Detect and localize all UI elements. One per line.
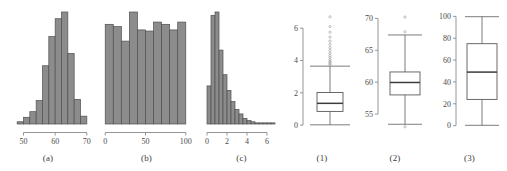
x-axis-tick-label: 4 [245, 137, 249, 146]
histogram-bar [105, 24, 113, 124]
histogram-bar [215, 12, 219, 124]
outlier-point [329, 46, 331, 48]
histogram-bar [137, 30, 145, 124]
boxplot-1-plot: 0246 [286, 0, 358, 150]
x-axis-tick-label: 6 [265, 137, 269, 146]
x-axis-tick-label: 2 [225, 137, 229, 146]
y-axis-tick-label: 60 [365, 78, 373, 87]
panel-label-a: (a) [0, 153, 96, 163]
histogram-bar [113, 27, 121, 124]
outlier-point [329, 31, 331, 33]
histogram-bar [243, 118, 247, 124]
histogram-bar [146, 31, 154, 124]
outlier-point [329, 36, 331, 38]
histogram-bar [62, 12, 68, 124]
outlier-point [404, 126, 406, 128]
histogram-bar [271, 123, 275, 124]
histogram-bar [223, 75, 227, 124]
histogram-bar [170, 30, 178, 124]
y-axis-tick-label: 4 [294, 56, 298, 65]
outlier-point [329, 16, 331, 18]
y-axis-tick-label: 6 [294, 24, 298, 33]
x-axis-tick-label: 70 [83, 137, 91, 146]
boxplot-panel-3: 020406080100 (3) [432, 0, 507, 171]
y-axis-tick-label: 60 [443, 56, 451, 65]
histogram-bar [227, 90, 231, 124]
outlier-point [329, 49, 331, 51]
histogram-bar [211, 15, 215, 124]
y-axis-tick-label: 0 [447, 121, 451, 130]
boxplot-panel-2: 55606570 (2) [358, 0, 432, 171]
histogram-c-plot: 0246 [197, 0, 286, 150]
outlier-point [404, 31, 406, 33]
y-axis-tick-label: 55 [365, 110, 373, 119]
histogram-bar [235, 109, 239, 124]
histogram-bar [255, 123, 259, 124]
histogram-bar [17, 122, 23, 124]
histogram-bar [121, 41, 129, 124]
y-axis-tick-label: 80 [443, 34, 451, 43]
histogram-bar [251, 122, 255, 124]
y-axis-tick-label: 40 [443, 78, 451, 87]
statistics-figure: 506070 (a) 050100 (b) 0246 (c) 0246 (1) … [0, 0, 507, 171]
histogram-panel-b: 050100 (b) [96, 0, 197, 171]
outlier-point [329, 40, 331, 42]
boxplot-3-plot: 020406080100 [432, 0, 507, 150]
outlier-point [404, 16, 406, 18]
y-axis-tick-label: 2 [294, 89, 298, 98]
boxplot-2-plot: 55606570 [358, 0, 432, 150]
histogram-bar [24, 117, 30, 124]
histogram-bar [43, 66, 49, 124]
histogram-panel-a: 506070 (a) [0, 0, 96, 171]
x-axis-tick-label: 50 [20, 137, 28, 146]
outlier-point [329, 25, 331, 27]
x-axis-tick-label: 100 [180, 137, 192, 146]
panel-label-2: (2) [358, 153, 432, 163]
histogram-bar [267, 123, 271, 124]
histogram-bar [178, 22, 186, 124]
histogram-bar [74, 99, 80, 124]
histogram-bar [30, 112, 36, 124]
histogram-bar [247, 121, 251, 124]
histogram-bar [68, 53, 74, 124]
histogram-bar [129, 12, 137, 124]
histogram-bar [49, 37, 55, 124]
outlier-point [329, 54, 331, 56]
histogram-b-plot: 050100 [96, 0, 197, 150]
x-axis-tick-label: 0 [103, 137, 107, 146]
panel-label-1: (1) [286, 153, 358, 163]
histogram-bar [55, 19, 61, 124]
histogram-bar [259, 123, 263, 124]
histogram-panel-c: 0246 (c) [197, 0, 286, 171]
x-axis-tick-label: 60 [51, 137, 59, 146]
box-iqr [390, 72, 420, 95]
histogram-bar [239, 114, 243, 124]
histogram-bar [154, 22, 162, 124]
histogram-bar [36, 100, 42, 124]
boxplot-panel-1: 0246 (1) [286, 0, 358, 171]
y-axis-tick-label: 100 [439, 12, 451, 21]
x-axis-tick-label: 0 [205, 137, 209, 146]
x-axis-tick-label: 50 [142, 137, 150, 146]
box-iqr [317, 93, 343, 112]
panel-label-b: (b) [96, 153, 197, 163]
histogram-bar [263, 123, 267, 124]
histogram-bar [207, 86, 211, 124]
panel-label-c: (c) [197, 153, 286, 163]
y-axis-tick-label: 65 [365, 46, 373, 55]
histogram-bar [162, 24, 170, 124]
histogram-a-plot: 506070 [0, 0, 96, 150]
y-axis-tick-label: 0 [294, 121, 298, 130]
histogram-bar [219, 50, 223, 124]
histogram-bar [81, 116, 87, 124]
outlier-point [329, 52, 331, 54]
panel-label-3: (3) [432, 153, 507, 163]
y-axis-tick-label: 20 [443, 100, 451, 109]
y-axis-tick-label: 70 [365, 14, 373, 23]
outlier-point [329, 43, 331, 45]
histogram-bar [231, 102, 235, 124]
